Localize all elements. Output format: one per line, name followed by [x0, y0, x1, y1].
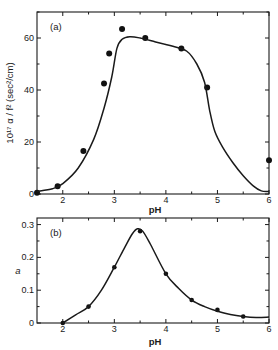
x-tick-label: 2 [60, 195, 65, 205]
y-tick-label: 20 [24, 137, 34, 147]
figure: 234560204060pH10¹⁷ α / f² (sec²/cm)(a) 2… [0, 0, 278, 350]
fit-curve [37, 37, 269, 192]
y-tick-label: 0 [29, 189, 34, 199]
data-point [119, 26, 125, 32]
x-tick-label: 6 [266, 195, 271, 205]
plot-frame [37, 218, 269, 323]
panel-a-plot: 234560204060pH10¹⁷ α / f² (sec²/cm)(a) [4, 12, 272, 215]
y-axis-label: a [15, 265, 20, 276]
panel-label: (b) [50, 227, 62, 238]
y-tick-label: 0.1 [21, 285, 34, 295]
x-axis-label: pH [149, 204, 162, 215]
panel-label: (a) [50, 21, 62, 32]
y-tick-label: 40 [24, 85, 34, 95]
x-tick-label: 4 [163, 324, 168, 334]
x-tick-label: 3 [112, 195, 117, 205]
x-axis-label: pH [149, 336, 162, 347]
x-tick-label: 5 [215, 324, 220, 334]
data-point [106, 51, 112, 57]
y-tick-label: 0.3 [21, 220, 34, 230]
y-tick-label: 0.2 [21, 252, 34, 262]
data-point [80, 148, 86, 154]
x-tick-label: 6 [266, 324, 271, 334]
data-point [101, 81, 107, 87]
x-tick-label: 5 [215, 195, 220, 205]
panel-b-plot: 2345600.10.20.3pHa(b) [15, 218, 271, 347]
y-tick-label: 60 [24, 33, 34, 43]
x-tick-label: 2 [60, 324, 65, 334]
data-point [266, 157, 272, 163]
plot-frame [37, 12, 269, 194]
y-axis-label: 10¹⁷ α / f² (sec²/cm) [4, 62, 15, 143]
x-tick-label: 3 [112, 324, 117, 334]
x-tick-label: 4 [163, 195, 168, 205]
y-tick-label: 0 [29, 318, 34, 328]
